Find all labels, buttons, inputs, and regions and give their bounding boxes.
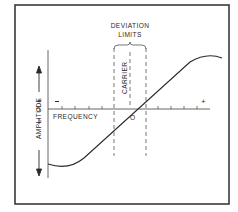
s-curve-response	[48, 56, 222, 167]
arrow-up-icon	[37, 66, 42, 73]
deviation-label-line1: DEVIATION	[111, 22, 150, 29]
deviation-label-line2: LIMITS	[118, 31, 142, 38]
carrier-label: CARRIER	[121, 62, 128, 94]
frequency-label: FREQUENCY	[53, 113, 98, 121]
origin-label: O	[130, 114, 136, 121]
y-plus-symbol: +	[35, 98, 44, 103]
x-minus-symbol	[55, 101, 59, 102]
discriminator-response-diagram: DEVIATION LIMITS CARRIER FREQUENCY AMPLI…	[0, 0, 238, 212]
deviation-brace	[114, 42, 146, 49]
y-minus-symbol	[39, 118, 40, 124]
arrow-down-icon	[37, 169, 42, 176]
y-zero-symbol: 0	[36, 105, 41, 114]
x-plus-symbol: +	[201, 97, 206, 106]
